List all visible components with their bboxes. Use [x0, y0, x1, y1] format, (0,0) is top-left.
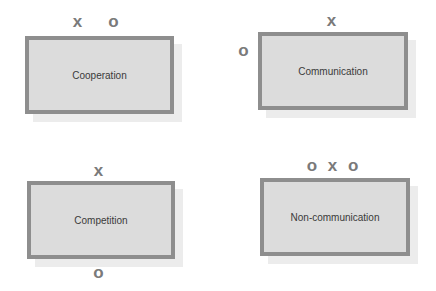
competition-mark-o: o [93, 264, 106, 281]
cooperation-label: Cooperation [72, 70, 126, 81]
communication-box: Communication [258, 32, 408, 110]
competition-mark-x: x [94, 162, 106, 179]
non-communication-box: Non-communication [260, 178, 410, 256]
competition-label: Competition [74, 215, 127, 226]
non-communication-marks: o x o [307, 157, 362, 174]
cooperation-mark-x: x [73, 13, 85, 30]
cooperation-box: Cooperation [25, 36, 174, 114]
communication-mark-o: o [238, 42, 251, 59]
communication-mark-x: x [327, 12, 339, 29]
cooperation-mark-o: o [108, 13, 121, 30]
competition-box: Competition [27, 181, 175, 259]
non-communication-label: Non-communication [291, 212, 380, 223]
communication-label: Communication [298, 66, 367, 77]
